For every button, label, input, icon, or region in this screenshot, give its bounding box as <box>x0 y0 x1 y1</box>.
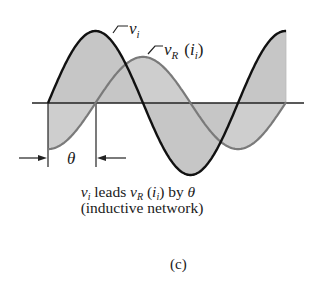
panel-label: (c) <box>170 256 187 273</box>
theta-label: θ <box>67 149 75 168</box>
vr-label-leader <box>148 46 163 54</box>
caption-line-2: (inductive network) <box>0 200 284 215</box>
theta-dimension: θ <box>19 149 126 168</box>
vi-label: vi <box>129 19 140 40</box>
arrow-right-icon <box>38 155 47 161</box>
arrow-left-icon <box>97 155 106 161</box>
phasor-waveform-diagram: vi vR(ii) θ <box>0 0 319 285</box>
vr-label: vR(ii) <box>164 40 203 61</box>
caption-line-1: vi leads vR (ii) by θ <box>0 184 276 199</box>
vi-label-leader <box>113 26 128 33</box>
